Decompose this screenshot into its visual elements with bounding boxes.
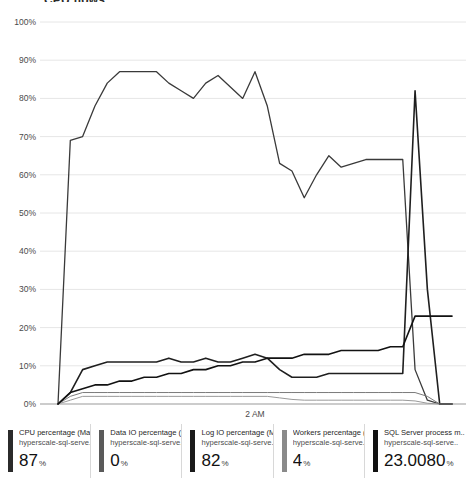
- y-axis-tick-label: 50%: [2, 208, 36, 218]
- legend-text-block: Workers percentage (..hyperscale-sql-ser…: [293, 428, 364, 473]
- legend-unit: %: [303, 459, 310, 468]
- y-axis-tick-label: 30%: [2, 284, 36, 294]
- legend-color-swatch: [99, 430, 104, 472]
- legend-metric-name: Log IO percentage (Max): [201, 428, 272, 438]
- legend-item[interactable]: CPU percentage (Max)hyperscale-sql-serve…: [0, 424, 91, 478]
- legend-color-swatch: [282, 430, 287, 472]
- chart-legend: CPU percentage (Max)hyperscale-sql-serve…: [0, 424, 466, 478]
- legend-resource-name: hyperscale-sql-serve..: [19, 438, 90, 448]
- legend-color-swatch: [190, 430, 195, 472]
- chart-title: CPU flows: [44, 0, 105, 2]
- legend-color-swatch: [8, 430, 13, 472]
- legend-text-block: CPU percentage (Max)hyperscale-sql-serve…: [19, 428, 90, 473]
- legend-color-swatch: [373, 430, 378, 472]
- legend-unit: %: [221, 459, 228, 468]
- legend-unit: %: [121, 459, 128, 468]
- legend-value: 87%: [19, 451, 90, 473]
- legend-value: 4%: [293, 451, 364, 473]
- series-line-2: [58, 91, 452, 404]
- cpu-metrics-chart-panel: CPU flows 100%90%80%70%60%50%40%30%20%10…: [0, 0, 466, 478]
- legend-unit: %: [39, 459, 46, 468]
- chart-plot-area: [0, 12, 466, 412]
- legend-resource-name: hyperscale-sql-serve..: [110, 438, 181, 448]
- legend-text-block: Data IO percentage (..hyperscale-sql-ser…: [110, 428, 181, 473]
- y-axis-tick-label: 100%: [2, 17, 36, 27]
- legend-metric-name: SQL Server process m..: [384, 428, 465, 438]
- legend-resource-name: hyperscale-sql-serve..: [293, 438, 364, 448]
- legend-resource-name: hyperscale-sql-serve..: [201, 438, 272, 448]
- y-axis-tick-label: 0%: [2, 399, 36, 409]
- y-axis-tick-label: 40%: [2, 246, 36, 256]
- y-axis-tick-label: 60%: [2, 170, 36, 180]
- y-axis-tick-label: 70%: [2, 132, 36, 142]
- y-axis-tick-label: 90%: [2, 55, 36, 65]
- legend-item[interactable]: SQL Server process m..hyperscale-sql-ser…: [365, 424, 466, 478]
- chart-svg: [0, 12, 466, 412]
- legend-metric-name: CPU percentage (Max): [19, 428, 90, 438]
- legend-value: 0%: [110, 451, 181, 473]
- legend-metric-name: Data IO percentage (..: [110, 428, 181, 438]
- y-axis-tick-label: 20%: [2, 323, 36, 333]
- legend-metric-name: Workers percentage (..: [293, 428, 364, 438]
- series-line-3: [58, 393, 452, 404]
- legend-item[interactable]: Workers percentage (..hyperscale-sql-ser…: [274, 424, 365, 478]
- y-axis-tick-label: 10%: [2, 361, 36, 371]
- legend-resource-name: hyperscale-sql-serve..: [384, 438, 465, 448]
- x-axis-tick-label: 2 AM: [245, 409, 264, 419]
- legend-unit: %: [446, 459, 453, 468]
- legend-text-block: SQL Server process m..hyperscale-sql-ser…: [384, 428, 465, 473]
- legend-text-block: Log IO percentage (Max)hyperscale-sql-se…: [201, 428, 272, 473]
- legend-item[interactable]: Log IO percentage (Max)hyperscale-sql-se…: [182, 424, 273, 478]
- legend-value: 23.0080%: [384, 451, 465, 473]
- series-line-4: [58, 316, 452, 404]
- series-line-1: [58, 396, 452, 404]
- legend-item[interactable]: Data IO percentage (..hyperscale-sql-ser…: [91, 424, 182, 478]
- y-axis-tick-label: 80%: [2, 93, 36, 103]
- legend-value: 82%: [201, 451, 272, 473]
